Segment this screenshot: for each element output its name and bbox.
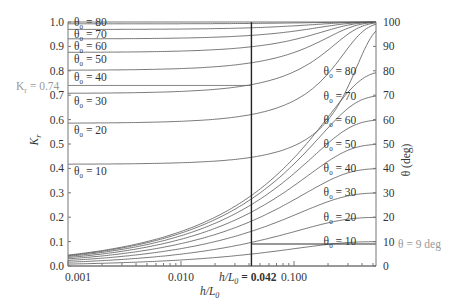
x-tick-label: 0.100 bbox=[281, 271, 307, 283]
y-left-tick-label: 0.1 bbox=[50, 236, 65, 248]
theta-series-label-80: θ0 = 80 bbox=[324, 65, 357, 80]
y-right-tick-label: 50 bbox=[383, 138, 395, 150]
curves bbox=[68, 22, 376, 264]
theta-series-label-40: θ0 = 40 bbox=[324, 162, 357, 177]
kr-curve-60 bbox=[68, 23, 376, 93]
y-right-tick-label: 40 bbox=[383, 162, 395, 174]
y-right-tick-label: 30 bbox=[383, 187, 395, 199]
x-axis-label: h/L0 bbox=[200, 285, 219, 300]
y-left-tick-label: 0.5 bbox=[50, 138, 65, 150]
kr-series-label-10: θ0 = 10 bbox=[74, 165, 107, 180]
y-right-tick-label: 80 bbox=[383, 65, 395, 77]
y-left-tick-label: 0.6 bbox=[50, 114, 65, 126]
kr-series-label-30: θ0 = 30 bbox=[74, 95, 107, 110]
y-left-tick-label: 0.8 bbox=[50, 65, 65, 77]
vline-label: h/L0 = 0.042 bbox=[219, 271, 277, 286]
hline-label: θ = 9 deg bbox=[398, 238, 441, 251]
y-right-tick-label: 60 bbox=[383, 114, 395, 126]
theta-series-label-10: θ0 = 10 bbox=[324, 235, 357, 250]
theta-series-label-50: θ0 = 50 bbox=[324, 138, 357, 153]
y-left-tick-label: 0.0 bbox=[50, 260, 65, 272]
y-left-tick-label: 0.3 bbox=[50, 187, 65, 199]
chart-canvas: 0.00.10.20.30.40.50.60.70.80.91.00102030… bbox=[0, 0, 459, 304]
theta-series-label-20: θ0 = 20 bbox=[324, 211, 357, 226]
y-left-axis-label: Kr bbox=[28, 134, 43, 147]
theta-series-label-30: θ0 = 30 bbox=[324, 186, 357, 201]
kr-series-label-20: θ0 = 20 bbox=[74, 124, 107, 139]
y-right-tick-label: 10 bbox=[383, 236, 395, 248]
y-left-tick-label: 0.4 bbox=[50, 162, 65, 174]
y-right-tick-label: 20 bbox=[383, 211, 395, 223]
y-right-tick-label: 90 bbox=[383, 40, 395, 52]
refraction-chart: 0.00.10.20.30.40.50.60.70.80.91.00102030… bbox=[0, 0, 459, 304]
y-right-tick-label: 100 bbox=[383, 16, 401, 28]
series-labels: θ0 = 80θ0 = 70θ0 = 60θ0 = 50θ0 = 40θ0 = … bbox=[74, 16, 357, 250]
y-left-tick-label: 0.2 bbox=[50, 211, 65, 223]
axes: 0.00.10.20.30.40.50.60.70.80.91.00102030… bbox=[16, 16, 441, 300]
y-right-tick-label: 0 bbox=[383, 260, 389, 272]
x-tick-label: 0.001 bbox=[65, 271, 91, 283]
y-right-axis-label: θ (deg) bbox=[400, 144, 413, 177]
theta-curve-60 bbox=[68, 120, 376, 256]
kr-series-label-40: θ0 = 40 bbox=[74, 71, 107, 86]
kr-series-label-50: θ0 = 50 bbox=[74, 53, 107, 68]
y-left-tick-label: 0.9 bbox=[50, 40, 65, 52]
y-right-tick-label: 70 bbox=[383, 89, 395, 101]
x-tick-label: 0.010 bbox=[168, 271, 194, 283]
y-left-tick-label: 1.0 bbox=[50, 16, 65, 28]
